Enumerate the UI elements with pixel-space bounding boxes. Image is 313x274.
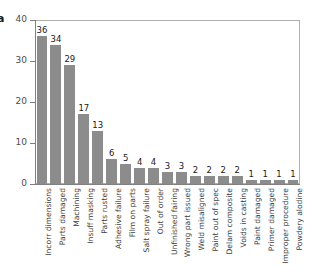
bar-value-label: 13 <box>92 121 103 130</box>
y-tick-0: 0 <box>30 184 35 185</box>
bar <box>78 114 89 184</box>
panel-label: a <box>0 12 4 25</box>
x-axis-label: Improper procedure <box>282 188 290 264</box>
x-axis-label-text: Incorr dimensions <box>45 188 53 256</box>
bar-value-label: 17 <box>78 104 89 113</box>
bar-value-label: 2 <box>207 166 212 175</box>
bars-layer: 363429171365443322221111 <box>35 20 300 184</box>
bar-group: 1 <box>288 20 299 184</box>
bar-group: 36 <box>37 20 48 184</box>
bar <box>176 172 187 184</box>
x-axis-label: Weld misaligned <box>198 188 206 251</box>
x-axis-label: Paint damaged <box>254 188 262 245</box>
x-axis-label: Parts rusted <box>101 188 109 234</box>
x-axis-label-text: Improper procedure <box>282 188 290 264</box>
bar-group: 1 <box>274 20 285 184</box>
x-axis-label: Machining <box>73 188 81 227</box>
bar-value-label: 3 <box>179 162 184 171</box>
x-axis-label-text: Film on parts <box>129 188 137 237</box>
x-axis-label: Primer damaged <box>268 188 276 251</box>
bar <box>204 176 215 184</box>
x-axis-label-text: Parts damaged <box>59 188 67 245</box>
x-axis-label: Salt spray failure <box>143 188 151 252</box>
x-axis-label-text: Weld misaligned <box>198 188 206 251</box>
bar <box>232 176 243 184</box>
bar-value-label: 2 <box>193 166 198 175</box>
bar-value-label: 36 <box>37 26 48 35</box>
x-axis-label: Parts damaged <box>59 188 67 245</box>
bar <box>106 159 117 184</box>
x-axis-label-text: Delam composite <box>226 188 234 255</box>
x-axis-label-text: Unfinished fairing <box>171 188 179 255</box>
x-axis-label-text: Out of order <box>157 188 165 234</box>
bar <box>50 45 61 184</box>
x-axis-label: Out of order <box>157 188 165 234</box>
bar-value-label: 2 <box>235 166 240 175</box>
bar <box>260 180 271 184</box>
x-axis-label-text: Insuff masking <box>87 188 95 244</box>
bar-group: 13 <box>92 20 103 184</box>
bar-group: 1 <box>246 20 257 184</box>
x-axis-label-text: Adhesive failure <box>115 188 123 249</box>
bar-value-label: 1 <box>276 170 281 179</box>
bar-value-label: 6 <box>109 149 114 158</box>
bar-group: 3 <box>176 20 187 184</box>
bar-group: 3 <box>162 20 173 184</box>
bar <box>120 164 131 185</box>
bar <box>64 65 75 184</box>
bar-value-label: 29 <box>64 55 75 64</box>
bar-value-label: 4 <box>151 158 156 167</box>
bar-group: 1 <box>260 20 271 184</box>
bar-value-label: 4 <box>137 158 142 167</box>
x-axis-label: Delam composite <box>226 188 234 255</box>
bar-group: 34 <box>50 20 61 184</box>
x-axis-label: Adhesive failure <box>115 188 123 249</box>
bar <box>37 36 48 184</box>
x-axis-label-text: Wrong part issued <box>184 188 192 257</box>
x-axis-label: Wrong part issued <box>184 188 192 257</box>
bar <box>218 176 229 184</box>
bar <box>92 131 103 184</box>
x-axis-label: Insuff masking <box>87 188 95 244</box>
bar-value-label: 1 <box>262 170 267 179</box>
bar-value-label: 1 <box>248 170 253 179</box>
x-axis-labels: Incorr dimensionsParts damagedMachiningI… <box>35 188 300 274</box>
x-axis-label-text: Paint damaged <box>254 188 262 245</box>
bar-group: 2 <box>190 20 201 184</box>
bar-group: 4 <box>134 20 145 184</box>
y-tick-label: 20 <box>16 96 27 107</box>
x-axis-label-text: Voids in casting <box>240 188 248 247</box>
y-tick-label: 30 <box>16 55 27 66</box>
bar <box>134 168 145 184</box>
bar <box>162 172 173 184</box>
y-tick-label: 10 <box>16 137 27 148</box>
bar-value-label: 1 <box>290 170 295 179</box>
x-axis-label-text: Powdery alodine <box>296 188 304 251</box>
x-axis-label: Incorr dimensions <box>45 188 53 256</box>
x-axis-label-text: Salt spray failure <box>143 188 151 252</box>
bar-group: 17 <box>78 20 89 184</box>
bar <box>190 176 201 184</box>
bar-value-label: 3 <box>165 162 170 171</box>
bar <box>274 180 285 184</box>
x-axis-line <box>35 184 300 185</box>
bar <box>246 180 257 184</box>
x-axis-label-text: Parts rusted <box>101 188 109 234</box>
x-axis-label: Film on parts <box>129 188 137 237</box>
x-axis-label-text: Primer damaged <box>268 188 276 251</box>
bar-group: 2 <box>204 20 215 184</box>
bar-group: 6 <box>106 20 117 184</box>
bar-group: 5 <box>120 20 131 184</box>
bar-value-label: 5 <box>123 154 128 163</box>
bar-value-label: 2 <box>221 166 226 175</box>
bar <box>288 180 299 184</box>
x-axis-label-text: Machining <box>73 188 81 227</box>
bar-group: 4 <box>148 20 159 184</box>
bar-group: 2 <box>232 20 243 184</box>
bar <box>148 168 159 184</box>
y-tick-label: 0 <box>21 178 27 189</box>
bar-value-label: 34 <box>50 35 61 44</box>
x-axis-label: Unfinished fairing <box>171 188 179 255</box>
bar-group: 2 <box>218 20 229 184</box>
bar-chart-figure: a 010203040 363429171365443322221111 Inc… <box>0 0 313 274</box>
